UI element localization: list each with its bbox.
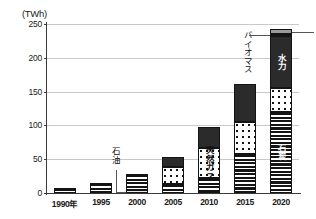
y-tick-label: 150 [28, 87, 42, 97]
bar-label-天然ガス: 天然ガス [205, 146, 214, 180]
y-tick-label: 50 [33, 154, 42, 164]
x-tick-label-2015: 2015 [236, 197, 254, 207]
bar-2005[interactable] [162, 157, 184, 193]
bar-segment-coal[interactable] [234, 154, 256, 193]
bar-segment-coal[interactable] [54, 188, 76, 193]
bar-2000[interactable] [126, 174, 148, 193]
bar-segment-biomass[interactable] [270, 34, 292, 36]
gridline [47, 58, 299, 59]
bar-label-水力: 水力 [277, 54, 286, 71]
x-tick-label-2010: 2010 [200, 197, 218, 207]
callout-leader-wind-solar [292, 32, 314, 33]
bar-segment-gas[interactable] [270, 88, 292, 112]
bar-segment-coal[interactable] [126, 174, 148, 190]
bar-segment-hydro[interactable] [234, 84, 256, 123]
callout-label-wind-solar: 風力・太陽光 [314, 26, 316, 77]
gridline [47, 125, 299, 126]
callout-leader-biomass [249, 35, 270, 36]
chart-container: (TWh) 050100150200250 1990年1995200020052… [0, 0, 316, 219]
bar-segment-coal[interactable] [198, 178, 220, 193]
x-tick-label-2020: 2020 [272, 197, 290, 207]
plot-area: 050100150200250 [47, 24, 299, 193]
y-tick-label: 200 [28, 53, 42, 63]
bar-1990[interactable] [54, 188, 76, 193]
bar-1995[interactable] [90, 183, 112, 193]
x-tick-label-2000: 2000 [128, 197, 146, 207]
y-tick-mark [44, 24, 47, 25]
bar-segment-gas[interactable] [162, 167, 184, 184]
gridline [47, 92, 299, 93]
callout-label-oil: 石油 [110, 147, 119, 164]
bar-segment-coal[interactable] [90, 183, 112, 193]
y-tick-mark [44, 58, 47, 59]
x-tick-label-2005: 2005 [164, 197, 182, 207]
y-tick-label: 100 [28, 120, 42, 130]
y-tick-mark [44, 92, 47, 93]
bar-2015[interactable] [234, 84, 256, 194]
x-tick-label-1995: 1995 [92, 197, 110, 207]
y-tick-label: 250 [28, 19, 42, 29]
y-tick-mark [44, 125, 47, 126]
bar-segment-coal[interactable] [162, 184, 184, 193]
bar-segment-gas[interactable] [234, 122, 256, 154]
callout-label-biomass: バイオマス [242, 31, 251, 74]
bar-label-石炭: 石炭 [277, 144, 286, 161]
y-axis-unit-label: (TWh) [22, 8, 47, 19]
y-tick-mark [44, 193, 47, 194]
y-tick-label: 0 [37, 188, 42, 198]
x-tick-label-1990: 1990年 [52, 197, 78, 209]
bar-segment-hydro[interactable] [198, 127, 220, 147]
bar-segment-oil[interactable] [126, 190, 148, 193]
callout-leader-oil [116, 170, 117, 192]
callout-leader-oil-h [116, 192, 126, 193]
gridline [47, 193, 299, 194]
bar-segment-hydro[interactable] [162, 157, 184, 168]
bar-segment-wind[interactable] [270, 29, 292, 34]
gridline [47, 24, 299, 25]
y-tick-mark [44, 159, 47, 160]
